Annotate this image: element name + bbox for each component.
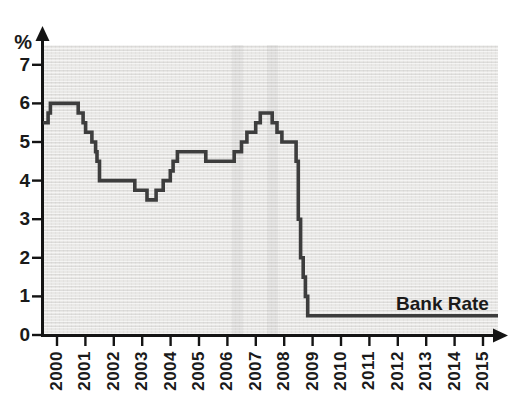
x-tick-label-2008: 2008 bbox=[274, 351, 294, 391]
y-tick-label-5: 5 bbox=[0, 131, 30, 153]
x-tick-label-2014: 2014 bbox=[445, 351, 465, 391]
y-tick-label-2: 2 bbox=[0, 247, 30, 269]
series-label: Bank Rate bbox=[396, 293, 489, 315]
x-tick-label-2010: 2010 bbox=[331, 351, 351, 391]
y-tick-label-3: 3 bbox=[0, 208, 30, 230]
x-tick-label-2003: 2003 bbox=[132, 351, 152, 391]
x-tick-label-2009: 2009 bbox=[303, 351, 323, 391]
x-tick-label-2005: 2005 bbox=[189, 351, 209, 391]
x-tick-label-2000: 2000 bbox=[47, 351, 67, 391]
x-tick-label-2013: 2013 bbox=[416, 351, 436, 391]
x-tick-label-2012: 2012 bbox=[388, 351, 408, 391]
y-tick-label-4: 4 bbox=[0, 170, 30, 192]
x-tick-label-2002: 2002 bbox=[104, 351, 124, 391]
x-tick-label-2007: 2007 bbox=[246, 351, 266, 391]
x-tick-label-2004: 2004 bbox=[161, 351, 181, 391]
y-tick-label-7: 7 bbox=[0, 54, 30, 76]
x-tick-label-2015: 2015 bbox=[473, 351, 493, 391]
x-tick-label-2006: 2006 bbox=[217, 351, 237, 391]
y-tick-label-6: 6 bbox=[0, 92, 30, 114]
bank-rate-chart: % 01234567 20002001200220032004200520062… bbox=[0, 0, 520, 399]
y-axis-unit-label: % bbox=[6, 31, 32, 54]
y-tick-label-0: 0 bbox=[0, 324, 30, 346]
y-tick-label-1: 1 bbox=[0, 285, 30, 307]
x-tick-label-2011: 2011 bbox=[359, 351, 379, 390]
chart-canvas bbox=[0, 0, 520, 399]
x-tick-label-2001: 2001 bbox=[75, 351, 95, 391]
